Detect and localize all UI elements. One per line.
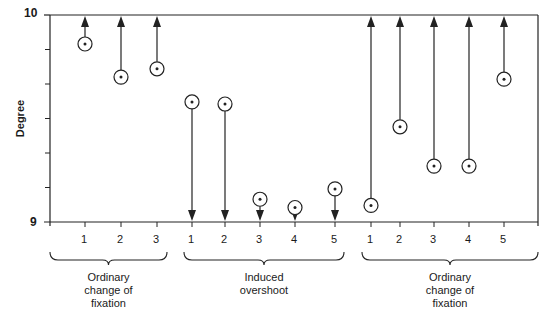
data-point-dot — [433, 165, 436, 168]
arrow-up-icon — [153, 16, 161, 27]
x-tick-label: 3 — [153, 233, 159, 245]
data-point-dot — [259, 198, 262, 201]
data-point-dot — [191, 100, 194, 103]
arrow-up-icon — [500, 16, 508, 27]
x-tick-label: 4 — [291, 233, 297, 245]
arrow-down-icon — [331, 210, 339, 221]
data-point-dot — [334, 187, 337, 190]
x-tick-label: 2 — [221, 233, 227, 245]
data-point-dot — [503, 78, 506, 81]
x-tick-label: 3 — [430, 233, 436, 245]
x-tick-label: 1 — [367, 233, 373, 245]
y-tick-9: 9 — [30, 215, 37, 229]
data-point-dot — [370, 204, 373, 207]
x-tick-label: 1 — [81, 233, 87, 245]
data-point-dot — [156, 67, 159, 70]
group-brace — [50, 252, 167, 265]
arrow-down-icon — [256, 210, 264, 221]
arrow-up-icon — [430, 16, 438, 27]
x-tick-label: 3 — [256, 233, 262, 245]
x-tick-label: 5 — [331, 233, 337, 245]
arrow-up-icon — [367, 16, 375, 27]
y-tick-10: 10 — [24, 6, 37, 20]
group-brace — [184, 252, 344, 265]
data-point-dot — [84, 42, 87, 45]
data-point-dot — [224, 103, 227, 106]
arrow-up-icon — [117, 16, 125, 27]
group-label: Ordinarychange offixation — [59, 271, 159, 310]
data-point-dot — [468, 165, 471, 168]
arrow-down-icon — [188, 210, 196, 221]
y-axis-label: Degree — [14, 99, 27, 139]
arrow-up-icon — [396, 16, 404, 27]
group-brace — [362, 252, 538, 265]
group-label: Ordinarychange offixation — [400, 271, 500, 310]
group-label: Inducedovershoot — [214, 271, 314, 297]
arrow-up-icon — [81, 16, 89, 27]
x-tick-label: 4 — [465, 233, 471, 245]
data-point-dot — [120, 76, 123, 79]
arrow-down-icon — [221, 210, 229, 221]
data-point-dot — [294, 206, 297, 209]
x-tick-label: 2 — [396, 233, 402, 245]
x-tick-label: 2 — [117, 233, 123, 245]
arrow-up-icon — [465, 16, 473, 27]
x-tick-label: 1 — [188, 233, 194, 245]
data-point-dot — [399, 125, 402, 128]
x-tick-label: 5 — [500, 233, 506, 245]
